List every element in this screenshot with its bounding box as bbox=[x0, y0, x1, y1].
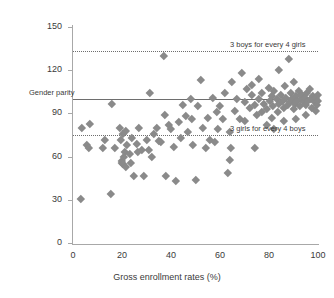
ref-label-gender-parity: Gender parity bbox=[29, 88, 74, 97]
data-point bbox=[231, 107, 239, 115]
data-point bbox=[214, 125, 222, 133]
data-point bbox=[98, 144, 106, 152]
data-point bbox=[285, 55, 293, 63]
data-point bbox=[143, 135, 151, 143]
data-point bbox=[223, 168, 231, 176]
y-tick-mark bbox=[68, 200, 72, 201]
scatter-chart: 0306090120150 020406080100 Gender parity… bbox=[0, 0, 334, 298]
data-point bbox=[228, 78, 236, 86]
y-tick-label: 150 bbox=[34, 21, 62, 31]
data-point bbox=[140, 171, 148, 179]
data-point bbox=[204, 114, 212, 122]
data-point bbox=[275, 66, 283, 74]
x-tick-label: 20 bbox=[107, 250, 137, 260]
data-point bbox=[194, 102, 202, 110]
x-tick-label: 0 bbox=[58, 250, 88, 260]
data-point bbox=[221, 89, 229, 97]
data-point bbox=[250, 144, 258, 152]
data-point bbox=[174, 118, 182, 126]
data-point bbox=[192, 176, 200, 184]
y-tick-mark bbox=[68, 70, 72, 71]
data-point bbox=[135, 124, 143, 132]
data-point bbox=[169, 143, 177, 151]
data-point bbox=[130, 171, 138, 179]
y-tick-mark bbox=[68, 113, 72, 114]
y-tick-mark bbox=[68, 157, 72, 158]
data-point bbox=[146, 89, 154, 97]
data-point bbox=[76, 194, 84, 202]
y-tick-label: 120 bbox=[34, 64, 62, 74]
data-point bbox=[302, 111, 310, 119]
data-point bbox=[101, 135, 109, 143]
data-point bbox=[162, 171, 170, 179]
y-tick-label: 0 bbox=[34, 237, 62, 247]
data-point bbox=[111, 144, 119, 152]
data-point bbox=[199, 124, 207, 132]
x-axis-title: Gross enrollment rates (%) bbox=[0, 272, 334, 282]
data-point bbox=[108, 99, 116, 107]
data-point bbox=[209, 94, 217, 102]
data-point bbox=[189, 141, 197, 149]
data-point bbox=[86, 120, 94, 128]
data-point bbox=[267, 114, 275, 122]
data-point bbox=[201, 144, 209, 152]
data-point bbox=[188, 115, 196, 123]
data-point bbox=[226, 156, 234, 164]
y-tick-label: 90 bbox=[34, 107, 62, 117]
data-point bbox=[167, 125, 175, 133]
data-point bbox=[160, 52, 168, 60]
y-tick-label: 60 bbox=[34, 151, 62, 161]
x-tick-label: 60 bbox=[205, 250, 235, 260]
data-point bbox=[255, 75, 263, 83]
data-point bbox=[227, 144, 235, 152]
x-axis-line bbox=[72, 244, 319, 245]
data-point bbox=[107, 190, 115, 198]
ref-label-three-girls-four-boys: 3 girls for every 4 boys bbox=[230, 124, 305, 133]
x-tick-label: 100 bbox=[303, 250, 333, 260]
y-tick-mark bbox=[68, 243, 72, 244]
x-tick-label: 80 bbox=[254, 250, 284, 260]
data-point bbox=[281, 82, 289, 90]
data-point bbox=[85, 144, 93, 152]
data-point bbox=[211, 138, 219, 146]
ref-line-three-boys-four-girls bbox=[73, 51, 318, 52]
data-point bbox=[196, 76, 204, 84]
data-point bbox=[172, 177, 180, 185]
data-point bbox=[78, 124, 86, 132]
y-tick-label: 30 bbox=[34, 194, 62, 204]
y-tick-mark bbox=[68, 27, 72, 28]
data-point bbox=[290, 78, 298, 86]
ref-line-three-girls-four-boys bbox=[73, 135, 318, 136]
ref-label-three-boys-four-girls: 3 boys for every 4 girls bbox=[230, 40, 305, 49]
data-point bbox=[292, 115, 300, 123]
data-point bbox=[218, 115, 226, 123]
data-point bbox=[187, 95, 195, 103]
x-tick-label: 40 bbox=[156, 250, 186, 260]
data-point bbox=[238, 69, 246, 77]
plot-area bbox=[73, 27, 318, 243]
data-point bbox=[161, 111, 169, 119]
data-point bbox=[179, 101, 187, 109]
